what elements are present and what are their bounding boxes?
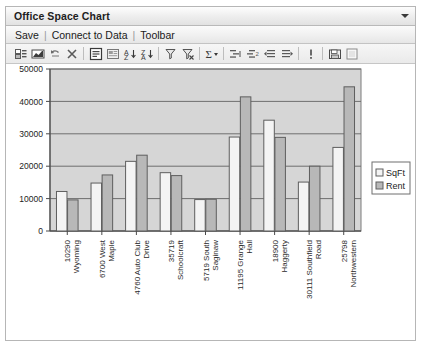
menu-item-toolbar[interactable]: Toolbar [140, 29, 174, 41]
svg-text:Z: Z [124, 54, 129, 61]
sum-icon[interactable]: Σ [204, 46, 219, 61]
y-tick-label: 20000 [19, 161, 43, 171]
fields-icon[interactable] [13, 46, 28, 61]
bar[interactable] [298, 182, 309, 231]
indent-right-icon[interactable] [279, 46, 294, 61]
y-tick-label: 30000 [19, 129, 43, 139]
chart-window: Office Space Chart Save | Connect to Dat… [5, 6, 416, 341]
chevron-down-icon[interactable] [401, 14, 409, 18]
chart-type-icon[interactable] [30, 46, 45, 61]
toolbar-separator [83, 47, 84, 60]
y-tick-label: 0 [38, 226, 43, 236]
x-tick-label: 5719 SouthSaginaw [202, 240, 220, 281]
x-tick-label: 6700 WestMaple [98, 239, 116, 278]
print-preview-icon[interactable] [344, 46, 359, 61]
sort-ascending-icon[interactable]: A Z [122, 46, 137, 61]
toolbar-separator [322, 47, 323, 60]
legend-swatch [376, 169, 383, 176]
x-tick-label: 10290Wyoming [63, 239, 81, 273]
bar[interactable] [171, 176, 182, 231]
layout-icon[interactable] [105, 46, 120, 61]
bar[interactable] [137, 155, 148, 231]
group-icon[interactable] [228, 46, 243, 61]
toolbar-separator [199, 47, 200, 60]
undo-icon[interactable] [47, 46, 62, 61]
x-tick-label: 25798Northwestern [340, 239, 358, 287]
title-bar: Office Space Chart [6, 7, 415, 26]
menu-bar: Save | Connect to Data | Toolbar [6, 26, 415, 44]
menu-item-save[interactable]: Save [15, 29, 39, 41]
bar[interactable] [206, 199, 217, 231]
bar[interactable] [344, 87, 355, 231]
svg-text:2: 2 [255, 51, 259, 57]
menu-item-connect-to-data[interactable]: Connect to Data [52, 29, 128, 41]
x-tick-label: 4760 Auto ClubDrive [133, 239, 151, 294]
bar[interactable] [195, 200, 206, 231]
info-icon[interactable] [303, 46, 318, 61]
y-tick-label: 10000 [19, 194, 43, 204]
x-tick-label: 30111 SouthfieldRoad [305, 240, 323, 299]
delete-icon[interactable] [64, 46, 79, 61]
bar[interactable] [68, 200, 79, 231]
filter-remove-icon[interactable] [180, 46, 195, 61]
toolbar-separator [298, 47, 299, 60]
menu-separator: | [133, 29, 136, 41]
x-tick-label: 11195 GrangeHall [236, 239, 254, 290]
filter-icon[interactable] [163, 46, 178, 61]
x-tick-label: 35719Schoolcraft [167, 239, 185, 280]
y-tick-label: 40000 [19, 97, 43, 107]
toolbar-separator [158, 47, 159, 60]
toolbar-separator [223, 47, 224, 60]
ungroup-icon[interactable]: 2 [245, 46, 260, 61]
page-title: Office Space Chart [14, 10, 110, 22]
save-as-icon[interactable] [327, 46, 342, 61]
properties-icon[interactable] [88, 46, 103, 61]
bar[interactable] [229, 137, 240, 231]
menu-separator: | [44, 29, 47, 41]
bar[interactable] [160, 173, 171, 231]
bar[interactable] [264, 120, 275, 231]
legend-label: Rent [386, 181, 406, 191]
y-tick-label: 50000 [19, 64, 43, 74]
bar[interactable] [275, 137, 286, 231]
bar[interactable] [126, 161, 137, 231]
toolbar: A Z Z A Σ [6, 44, 415, 64]
bar[interactable] [102, 175, 113, 231]
x-tick-label: 18900Haggerty [271, 239, 289, 272]
bar-chart[interactable]: 0100002000030000400005000010290Wyoming67… [6, 64, 415, 340]
bar[interactable] [333, 147, 344, 231]
bar[interactable] [309, 166, 320, 231]
bar[interactable] [56, 191, 67, 231]
svg-text:A: A [141, 54, 146, 61]
indent-left-icon[interactable] [262, 46, 277, 61]
svg-text:Σ: Σ [205, 48, 211, 60]
sort-descending-icon[interactable]: Z A [139, 46, 154, 61]
chart-panel[interactable]: 0100002000030000400005000010290Wyoming67… [6, 64, 415, 340]
bar[interactable] [240, 97, 251, 231]
legend-swatch [376, 182, 383, 189]
bar[interactable] [91, 183, 102, 231]
legend-label: SqFt [386, 168, 406, 178]
